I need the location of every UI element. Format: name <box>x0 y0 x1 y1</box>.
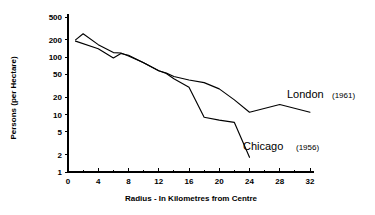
y-tick-label: 20 <box>53 93 62 102</box>
series-year-chicago: (1956) <box>296 143 319 152</box>
y-tick-label: 1 <box>58 168 63 177</box>
series-lines-group <box>76 34 310 158</box>
x-tick-label: 0 <box>66 177 71 186</box>
x-tick-label: 16 <box>185 177 194 186</box>
series-year-london: (1961) <box>332 91 355 100</box>
y-tick-label: 50 <box>53 70 62 79</box>
y-tick-label: 100 <box>49 53 63 62</box>
series-line-london <box>76 34 310 112</box>
x-tick-label: 12 <box>154 177 163 186</box>
x-tick-label: 8 <box>126 177 131 186</box>
y-tick-label: 500 <box>49 13 63 22</box>
plot-area: 125102050100200500 048121620242832 <box>49 13 315 186</box>
y-tick-label: 2 <box>58 151 63 160</box>
x-tick-label: 20 <box>215 177 224 186</box>
population-density-chart: 125102050100200500 048121620242832 Radiu… <box>0 0 375 215</box>
y-axis-title: Persons (per Hectare) <box>9 56 18 139</box>
y-tick-label: 5 <box>58 128 63 137</box>
series-label-chicago: Chicago <box>243 140 283 152</box>
chart-page: 125102050100200500 048121620242832 Radiu… <box>0 0 375 215</box>
x-tick-label: 32 <box>306 177 315 186</box>
x-tick-label: 4 <box>96 177 101 186</box>
x-tick-label: 28 <box>275 177 284 186</box>
x-axis-title: Radius - In Kilometres from Centre <box>125 194 258 203</box>
y-tick-label: 200 <box>49 36 63 45</box>
series-label-london: London <box>287 88 324 100</box>
x-tick-label: 24 <box>245 177 254 186</box>
y-tick-label: 10 <box>53 111 62 120</box>
x-axis-ticks: 048121620242832 <box>66 168 315 186</box>
y-axis-ticks: 125102050100200500 <box>49 13 68 177</box>
series-line-chicago <box>76 41 250 157</box>
